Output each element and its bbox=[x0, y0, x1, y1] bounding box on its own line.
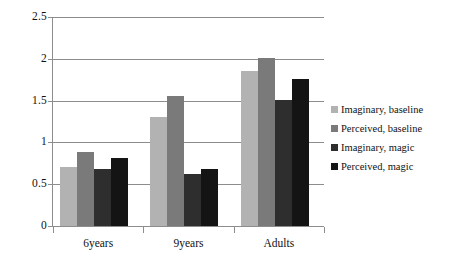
legend-label: Perceived, baseline bbox=[341, 123, 422, 134]
x-axis-tick-mark bbox=[234, 227, 235, 233]
bar bbox=[150, 117, 167, 226]
y-axis-tick-label: 1 bbox=[5, 136, 47, 148]
y-axis-tick-label: 0 bbox=[5, 220, 47, 232]
bar bbox=[77, 152, 94, 226]
y-axis-tick-label: 0.5 bbox=[5, 178, 47, 190]
bar bbox=[258, 58, 275, 226]
x-axis-tick-mark bbox=[53, 227, 54, 233]
x-axis-category-label: 9years bbox=[143, 237, 233, 250]
legend-swatch-icon bbox=[331, 144, 338, 151]
bar bbox=[167, 96, 184, 226]
legend-label: Imaginary, magic bbox=[341, 142, 414, 153]
y-axis-tick-label: 2 bbox=[5, 53, 47, 65]
chart-legend: Imaginary, baselinePerceived, baselineIm… bbox=[331, 100, 452, 176]
x-axis-category-label: Adults bbox=[234, 237, 324, 250]
legend-item: Perceived, magic bbox=[331, 157, 452, 176]
legend-swatch-icon bbox=[331, 106, 338, 113]
bar bbox=[241, 71, 258, 226]
legend-swatch-icon bbox=[331, 125, 338, 132]
legend-item: Imaginary, baseline bbox=[331, 100, 452, 119]
x-axis-category-label: 6years bbox=[53, 237, 143, 250]
y-axis-tick-label: 2.5 bbox=[5, 11, 47, 23]
legend-item: Perceived, baseline bbox=[331, 119, 452, 138]
bar bbox=[111, 158, 128, 226]
bar bbox=[184, 174, 201, 226]
bar bbox=[94, 169, 111, 226]
bar-group bbox=[53, 17, 143, 226]
x-axis-tick-mark bbox=[324, 227, 325, 233]
bar bbox=[292, 79, 309, 226]
bar-group bbox=[143, 17, 233, 226]
legend-swatch-icon bbox=[331, 163, 338, 170]
bar bbox=[60, 167, 77, 226]
bar bbox=[201, 169, 218, 226]
plot-area bbox=[53, 17, 324, 226]
bar-chart: 2.521.510.50 6years9yearsAdults Imaginar… bbox=[0, 0, 452, 265]
legend-label: Imaginary, baseline bbox=[341, 104, 423, 115]
y-axis-tick-labels: 2.521.510.50 bbox=[0, 0, 47, 265]
y-axis-tick-label: 1.5 bbox=[5, 95, 47, 107]
legend-label: Perceived, magic bbox=[341, 161, 413, 172]
bar-group bbox=[234, 17, 324, 226]
x-axis-tick-mark bbox=[143, 227, 144, 233]
x-axis-line bbox=[52, 226, 324, 227]
bar bbox=[275, 100, 292, 226]
legend-item: Imaginary, magic bbox=[331, 138, 452, 157]
